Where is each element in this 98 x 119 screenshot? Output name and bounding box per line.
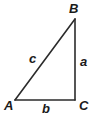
side-label-c: c (29, 52, 36, 65)
side-c-segment (15, 19, 75, 100)
side-label-a: a (80, 55, 87, 68)
right-triangle-figure: B A C c a b (0, 0, 98, 119)
vertex-label-c: C (79, 99, 88, 112)
vertex-label-a: A (4, 99, 13, 112)
vertex-label-b: B (69, 2, 78, 15)
side-label-b: b (42, 102, 50, 115)
